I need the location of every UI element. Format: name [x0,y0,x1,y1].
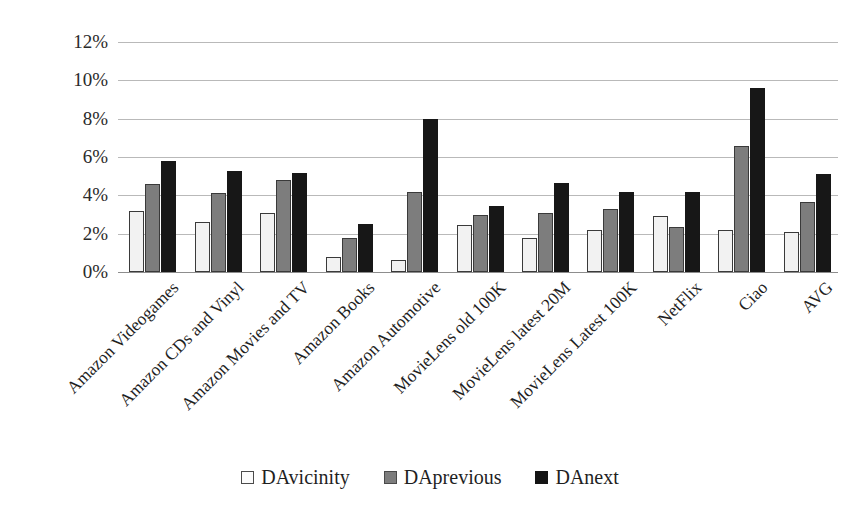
bar-group [784,42,831,272]
bar-vicinity [129,211,144,272]
bar-groups [118,42,838,272]
bar-previous [276,180,291,272]
bar-next [161,161,176,272]
bar-group [195,42,242,272]
bar-vicinity [195,222,210,272]
plot-area [118,42,838,272]
bar-vicinity [587,230,602,272]
bar-previous [734,146,749,273]
x-tick-label: AVG [798,278,837,317]
bar-next [227,171,242,272]
bar-group [653,42,700,272]
bar-vicinity [784,232,799,272]
bar-next [554,183,569,272]
bar-group [718,42,765,272]
legend-item-davicinity[interactable]: DAvicinity [241,466,350,488]
y-axis-tick-labels: 12%10%8%6%4%2%0% [40,42,108,272]
bar-previous [145,184,160,272]
bar-group [129,42,176,272]
legend-label: DAnext [555,466,618,488]
bar-group [326,42,373,272]
x-tick-label: Amazon Movies and TV [177,278,313,414]
bar-vicinity [391,260,406,272]
chart-legend: DAvicinityDApreviousDAnext [0,466,860,488]
swatch-vicinity-icon [241,471,254,484]
bar-next [685,192,700,273]
bar-group [522,42,569,272]
bar-next [292,173,307,272]
bar-group [391,42,438,272]
bar-group [587,42,634,272]
y-tick-label-0pct: 0% [40,262,108,281]
bar-previous [211,193,226,272]
x-tick-label: Amazon Automotive [327,278,444,395]
bar-previous [800,202,815,272]
bar-previous [342,238,357,273]
bar-vicinity [326,257,341,272]
swatch-next-icon [535,471,548,484]
y-tick-label-4pct: 4% [40,185,108,204]
legend-label: DAprevious [404,466,502,488]
bar-next [489,206,504,272]
legend-item-danext[interactable]: DAnext [535,466,618,488]
bar-next [423,119,438,272]
bar-chart: 12%10%8%6%4%2%0% Amazon VideogamesAmazon… [0,0,860,521]
bar-vicinity [718,230,733,272]
bar-vicinity [522,238,537,272]
bar-previous [669,227,684,272]
bar-previous [407,192,422,272]
swatch-previous-icon [384,471,397,484]
y-tick-label-6pct: 6% [40,147,108,166]
bar-vicinity [653,216,668,272]
bar-vicinity [457,225,472,272]
bar-group [457,42,504,272]
x-tick-label: MovieLens old 100K [390,278,509,397]
x-tick-label: Amazon Videogames [63,278,182,397]
bar-vicinity [260,213,275,272]
bar-next [358,224,373,272]
bar-next [750,88,765,272]
legend-item-daprevious[interactable]: DAprevious [384,466,502,488]
x-tick-label: Amazon Books [288,278,378,368]
x-tick-label: Ciao [734,278,771,315]
y-tick-label-12pct: 12% [40,32,108,51]
bar-previous [603,209,618,272]
x-tick-label: MovieLens latest 20M [449,278,574,403]
bar-previous [473,215,488,273]
bar-next [619,192,634,273]
bar-previous [538,213,553,272]
legend-label: DAvicinity [261,466,350,488]
bar-group [260,42,307,272]
x-tick-label: MovieLens Latest 100K [507,278,641,412]
x-tick-label: Amazon CDs and Vinyl [116,278,248,410]
bar-next [816,174,831,272]
x-tick-label: NetFlix [655,278,706,329]
y-tick-label-2pct: 2% [40,224,108,243]
y-tick-label-8pct: 8% [40,109,108,128]
gridline-0 [118,272,838,273]
y-tick-label-10pct: 10% [40,70,108,89]
